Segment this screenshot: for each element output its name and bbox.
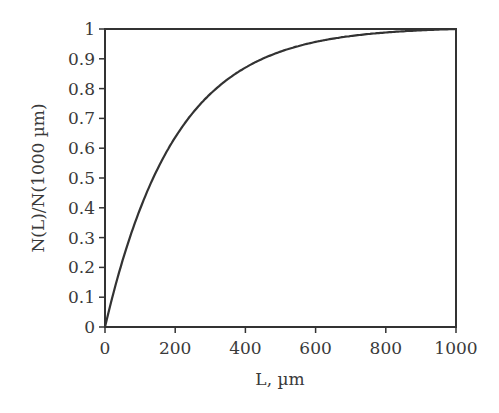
y-tick-label: 0.8	[68, 79, 95, 99]
x-tick-label: 1000	[434, 338, 477, 358]
y-axis-ticks: 00.10.20.30.40.50.60.70.80.91	[68, 19, 105, 337]
y-tick-label: 0.9	[68, 49, 95, 69]
data-series-line	[105, 29, 456, 327]
y-tick-label: 0.3	[68, 228, 95, 248]
x-axis-label: L, µm	[255, 369, 304, 389]
y-tick-label: 0.1	[68, 287, 95, 307]
y-tick-label: 0.4	[68, 198, 95, 218]
y-axis-label: N(L)/N(1000 µm)	[28, 103, 48, 252]
x-tick-label: 0	[100, 338, 111, 358]
x-tick-label: 600	[299, 338, 331, 358]
line-chart: 00.10.20.30.40.50.60.70.80.91 0200400600…	[0, 0, 499, 413]
plot-frame	[105, 29, 456, 327]
y-tick-label: 1	[84, 19, 95, 39]
y-tick-label: 0.2	[68, 257, 95, 277]
x-tick-label: 800	[370, 338, 402, 358]
y-tick-label: 0.7	[68, 108, 95, 128]
x-tick-label: 400	[229, 338, 261, 358]
y-tick-label: 0	[84, 317, 95, 337]
x-axis-ticks: 02004006008001000	[100, 327, 478, 358]
x-tick-label: 200	[159, 338, 191, 358]
y-tick-label: 0.6	[68, 138, 95, 158]
y-tick-label: 0.5	[68, 168, 95, 188]
